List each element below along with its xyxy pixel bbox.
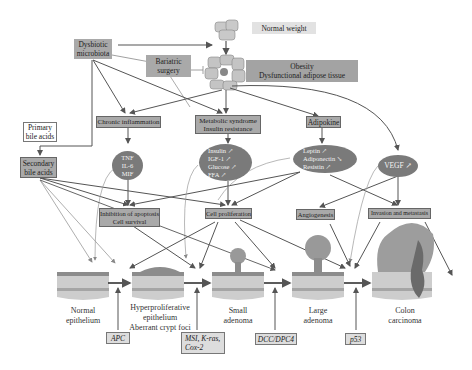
bariatric-line2: surgery (157, 66, 179, 75)
secondary-line1: Secondary (23, 159, 55, 168)
msi-line1: MSI, K-ras, (185, 334, 220, 343)
metabolic-factors-ellipse: Insulin ↗ IGF-1 ↗ Glucose ↗ FFA ↗ (199, 144, 252, 181)
obese-adipocyte-cluster-icon (205, 55, 245, 90)
stage-label-normal: Normal epithelium (52, 306, 114, 326)
igf1-label: IGF-1 ↗ (208, 155, 231, 163)
adipokine-box: Adipokine (306, 116, 341, 128)
adiponectin-label: Adiponectin ↘ (303, 155, 342, 163)
dcc-dpc4-gene-box: DCC/DPC4 (255, 333, 297, 345)
stage-line2: adenoma (210, 316, 266, 326)
chronic-inflammation-box: Chronic inflammation (96, 116, 161, 128)
stage-label-hyperproliferative: Hyperproliferative epithelium Aberrant c… (115, 303, 205, 333)
msi-kras-cox2-gene-box: MSI, K-ras, Cox-2 (181, 332, 225, 354)
colon-carcinoma-tissue (372, 223, 434, 300)
stage-line2: epithelium (52, 316, 114, 326)
stage-line2: carcinoma (376, 316, 434, 326)
bariatric-line1: Bariatric (155, 57, 181, 66)
stage-line1: Hyperproliferative (115, 303, 205, 313)
inflammation-cytokines-ellipse: TNF IL-6 MIF (112, 151, 143, 180)
glucose-label: Glucose ↗ (208, 163, 236, 171)
apoptosis-line2: Cell survival (113, 218, 146, 226)
inhibition-of-apoptosis-box: Inhibition of apoptosis Cell survival (99, 208, 160, 227)
large-adenoma-tissue (292, 235, 344, 300)
msi-line2: Cox-2 (185, 343, 203, 352)
hyperproliferative-tissue (132, 267, 184, 300)
stage-line1: Colon (376, 306, 434, 316)
stage-label-colon-carcinoma: Colon carcinoma (376, 306, 434, 326)
stage-line1: Large (290, 306, 346, 316)
resistin-label: Resistin ↗ (303, 163, 331, 171)
leptin-label: Leptin ↗ (303, 147, 327, 155)
metabolic-line2: Insulin resistance (204, 125, 253, 133)
p53-gene-box: p53 (345, 333, 366, 345)
dysbiotic-line1: Dysbiotic (78, 40, 107, 49)
primary-bile-acids-box: Primary bile acids (23, 122, 57, 142)
stage-line2: adenoma (290, 316, 346, 326)
ffa-label: FFA ↗ (208, 171, 226, 179)
mif-label: MIF (122, 170, 134, 178)
il6-label: IL-6 (122, 162, 134, 170)
tnf-label: TNF (121, 154, 133, 162)
cell-proliferation-box: Cell proliferation (205, 208, 252, 219)
secondary-bile-acids-box: Secondary bile acids (20, 157, 57, 178)
bariatric-surgery-box: Bariatric surgery (146, 55, 191, 77)
apc-gene-box: APC (106, 332, 130, 344)
normal-weight-label: Normal weight (252, 22, 316, 34)
metabolic-syndrome-box: Metabolic syndrome Insulin resistance (195, 115, 261, 134)
metabolic-line1: Metabolic syndrome (199, 117, 257, 125)
invasion-metastasis-box: Invasion and metastasis (368, 208, 431, 219)
obesity-box: Obesity Dysfunctional adipose tissue (246, 60, 358, 82)
primary-line1: Primary (28, 123, 52, 132)
angiogenesis-box: Angiogenesis (296, 209, 335, 220)
adipokine-factors-ellipse: Leptin ↗ Adiponectin ↘ Resistin ↗ (293, 145, 357, 173)
obesity-line1: Obesity (290, 62, 313, 71)
normal-adipocyte-icon (215, 20, 238, 40)
dysbiotic-line2: microbiota (77, 49, 110, 58)
secondary-line2: bile acids (24, 168, 53, 177)
insulin-label: Insulin ↗ (208, 147, 233, 155)
stage-line1: Normal (52, 306, 114, 316)
vegf-ellipse: VEGF ↗ (378, 155, 418, 177)
normal-epithelium-tissue (57, 272, 109, 300)
apoptosis-line1: Inhibition of apoptosis (100, 210, 159, 218)
stage-line1: Small (210, 306, 266, 316)
stage-line2: epithelium (115, 313, 205, 323)
stage-label-large-adenoma: Large adenoma (290, 306, 346, 326)
obesity-line2: Dysfunctional adipose tissue (259, 71, 345, 80)
small-adenoma-tissue (212, 248, 264, 300)
primary-line2: bile acids (26, 132, 55, 141)
dysbiotic-microbiota-box: Dysbiotic microbiota (74, 39, 112, 59)
stage-label-small-adenoma: Small adenoma (210, 306, 266, 326)
